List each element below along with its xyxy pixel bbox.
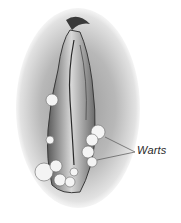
warts-label: Warts xyxy=(137,144,167,156)
anatomical-illustration xyxy=(0,0,181,223)
